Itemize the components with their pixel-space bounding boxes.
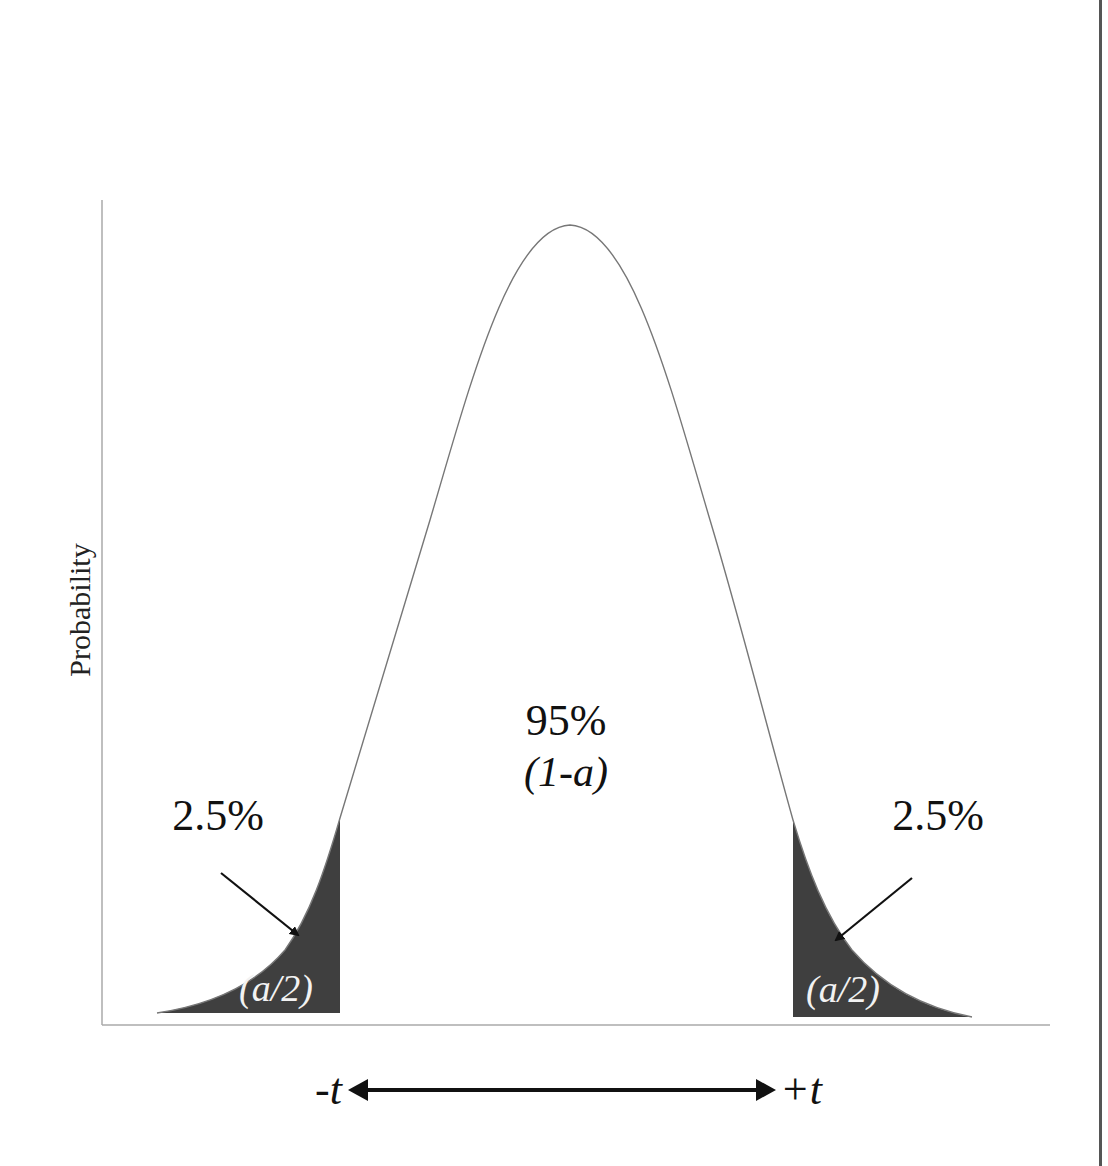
left-symbol-label: (a/2) <box>239 966 313 1010</box>
left-pointer-arrow <box>221 873 298 935</box>
y-axis-label: Probability <box>63 543 97 676</box>
bell-curve <box>157 225 972 1017</box>
page-border <box>1099 0 1102 1166</box>
t-range-double-arrow <box>348 1079 776 1101</box>
t-distribution-diagram <box>0 0 1108 1166</box>
right-percent-label: 2.5% <box>892 790 984 841</box>
right-symbol-label: (a/2) <box>806 967 880 1011</box>
lower-bound-label: -t <box>315 1064 342 1115</box>
left-percent-label: 2.5% <box>172 790 264 841</box>
right-pointer-arrow <box>836 878 912 940</box>
lower-bound-text: -t <box>315 1065 342 1114</box>
upper-bound-text: +t <box>780 1065 822 1114</box>
center-percent-label: 95% <box>526 695 607 746</box>
center-symbol-label: (1-a) <box>524 748 608 796</box>
upper-bound-label: +t <box>780 1064 822 1115</box>
